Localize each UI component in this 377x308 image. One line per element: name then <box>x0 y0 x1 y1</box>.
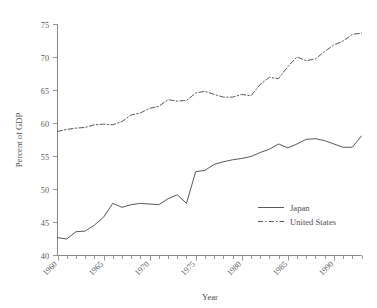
x-tick-label-1965: 1965 <box>87 260 105 278</box>
x-tick-labels-group: 1960196519701975198019851990 <box>41 260 335 278</box>
x-tick-label-1990: 1990 <box>317 260 335 278</box>
x-ticks-group <box>59 256 363 261</box>
series-line-united-states <box>58 33 362 131</box>
x-tick-label-1980: 1980 <box>225 260 243 278</box>
y-tick-label-45: 45 <box>41 219 49 228</box>
legend-label-japan: Japan <box>290 203 310 213</box>
y-axis-title: Percent of GDP <box>14 113 24 168</box>
x-tick-label-1985: 1985 <box>271 260 289 278</box>
y-tick-label-70: 70 <box>41 54 49 63</box>
x-axis-title: Year <box>202 292 218 302</box>
chart-legend: Japan United States <box>258 203 337 227</box>
y-ticks-group: 40 45 50 55 60 65 70 75 <box>41 21 58 261</box>
x-tick-label-1975: 1975 <box>179 260 197 278</box>
y-tick-label-75: 75 <box>41 21 49 30</box>
line-chart: 40 45 50 55 60 65 70 75 1960196519701975… <box>0 0 377 308</box>
x-tick-label-1960: 1960 <box>41 260 59 278</box>
chart-figure: 40 45 50 55 60 65 70 75 1960196519701975… <box>0 0 377 308</box>
y-tick-label-60: 60 <box>41 120 49 129</box>
y-tick-label-55: 55 <box>41 153 49 162</box>
y-tick-label-40: 40 <box>41 252 49 261</box>
legend-label-united-states: United States <box>290 217 337 227</box>
x-tick-label-1970: 1970 <box>133 260 151 278</box>
y-tick-label-65: 65 <box>41 87 49 96</box>
y-tick-label-50: 50 <box>41 186 49 195</box>
